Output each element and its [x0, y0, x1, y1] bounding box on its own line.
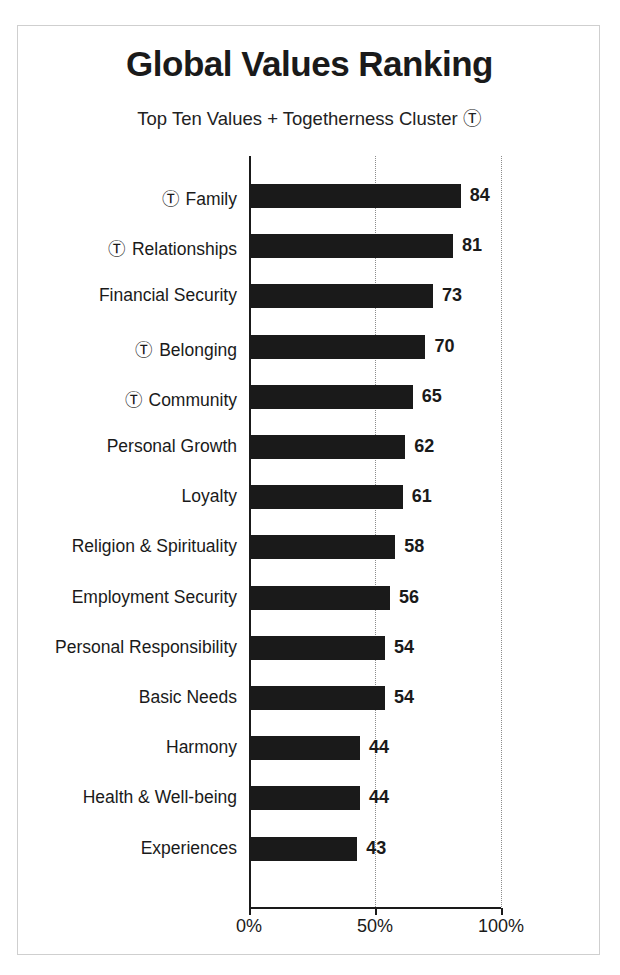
bar-value-label: 54 [394, 687, 414, 708]
bar-row: Ⓣ Family84 [249, 184, 501, 208]
category-label: Financial Security [99, 285, 237, 306]
bar-row: Loyalty61 [249, 485, 501, 509]
bar-row: Personal Growth62 [249, 435, 501, 459]
bar-value-label: 70 [434, 336, 454, 357]
bar-row: Employment Security56 [249, 586, 501, 610]
togetherness-cluster-icon: Ⓣ [162, 185, 179, 210]
bar-value-label: 81 [462, 235, 482, 256]
bar-value-label: 44 [369, 737, 389, 758]
x-tick-label-100%: 100% [478, 916, 524, 937]
bar-row: Experiences43 [249, 837, 501, 861]
category-label: Personal Responsibility [55, 637, 237, 658]
bar[interactable] [249, 284, 433, 308]
bar-value-label: 54 [394, 637, 414, 658]
category-label: Personal Growth [107, 436, 237, 457]
bar[interactable] [249, 335, 425, 359]
bar-value-label: 44 [369, 787, 389, 808]
category-label: Ⓣ Relationships [108, 235, 237, 260]
bar[interactable] [249, 686, 385, 710]
category-label: Employment Security [72, 587, 237, 608]
chart-title: Global Values Ranking [18, 44, 601, 84]
bar-value-label: 56 [399, 587, 419, 608]
bar-row: Harmony44 [249, 736, 501, 760]
bar-row: Ⓣ Community65 [249, 385, 501, 409]
chart-figure: Global Values Ranking Top Ten Values + T… [17, 25, 600, 955]
bar-row: Health & Well-being44 [249, 786, 501, 810]
bar[interactable] [249, 385, 413, 409]
bar-row: Financial Security73 [249, 284, 501, 308]
x-tick-50% [375, 908, 377, 915]
bar-row: Ⓣ Relationships81 [249, 234, 501, 258]
category-label: Ⓣ Family [162, 185, 237, 210]
bar-value-label: 58 [404, 536, 424, 557]
bar[interactable] [249, 535, 395, 559]
bar[interactable] [249, 485, 403, 509]
bar[interactable] [249, 184, 461, 208]
bar-row: Personal Responsibility54 [249, 636, 501, 660]
bar-row: Religion & Spirituality58 [249, 535, 501, 559]
bar-value-label: 61 [412, 486, 432, 507]
x-tick-label-0%: 0% [236, 916, 262, 937]
bar[interactable] [249, 736, 360, 760]
bar-value-label: 65 [422, 386, 442, 407]
bar[interactable] [249, 435, 405, 459]
category-label: Religion & Spirituality [72, 536, 237, 557]
bar[interactable] [249, 636, 385, 660]
bar-row: Ⓣ Belonging70 [249, 335, 501, 359]
category-label: Ⓣ Belonging [135, 336, 237, 361]
togetherness-cluster-icon: Ⓣ [125, 386, 142, 411]
gridline-100% [501, 156, 502, 909]
category-label: Health & Well-being [83, 787, 237, 808]
bar-value-label: 73 [442, 285, 462, 306]
plot-area: 0%50%100% Ⓣ Family84Ⓣ Relationships81Fin… [249, 156, 501, 909]
x-tick-0% [249, 908, 251, 915]
togetherness-cluster-icon: Ⓣ [135, 336, 152, 361]
bar[interactable] [249, 234, 453, 258]
category-label: Loyalty [182, 486, 237, 507]
x-tick-label-50%: 50% [357, 916, 393, 937]
chart-subtitle: Top Ten Values + Togetherness Cluster Ⓣ [18, 104, 601, 130]
category-label: Harmony [166, 737, 237, 758]
togetherness-cluster-icon: Ⓣ [108, 235, 125, 260]
category-label: Ⓣ Community [125, 386, 237, 411]
bar[interactable] [249, 586, 390, 610]
bar-row: Basic Needs54 [249, 686, 501, 710]
x-tick-100% [501, 908, 503, 915]
bar[interactable] [249, 786, 360, 810]
category-label: Experiences [141, 838, 237, 859]
bar-value-label: 84 [470, 185, 490, 206]
bar-value-label: 43 [366, 838, 386, 859]
bar-value-label: 62 [414, 436, 434, 457]
category-label: Basic Needs [139, 687, 237, 708]
bar[interactable] [249, 837, 357, 861]
